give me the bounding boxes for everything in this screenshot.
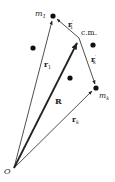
label-r1-prime: r′1 [68,19,74,30]
vector-r1 [14,21,52,168]
label-mk: mk [99,91,109,101]
mass-dot [90,42,95,47]
label-R: R [55,96,62,106]
label-cm: c.m. [81,28,97,37]
mass-m1-dot [50,13,55,18]
vector-rk [14,91,92,168]
label-m1: m1 [35,9,46,19]
mass-mk-dot [93,85,98,90]
label-rk-prime: r′k [91,54,97,65]
label-rk: rk [72,115,79,125]
mass-dot [67,75,72,80]
center-of-mass-diagram: m1 c.m. mk O r1 R rk r′1 r′k [0,0,115,182]
label-origin: O [4,167,11,176]
mass-dot [30,45,35,50]
label-r1: r1 [44,60,51,70]
